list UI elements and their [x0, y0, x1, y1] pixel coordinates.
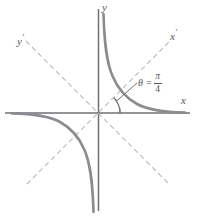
axis-label-y: y: [102, 2, 107, 13]
equals-sign: =: [146, 78, 152, 88]
hyperbola-rotated-axes-figure: y x x′ y′ θ = π 4: [0, 0, 197, 217]
fraction-denominator: 4: [154, 84, 161, 95]
axis-label-x-prime: x′: [170, 28, 177, 42]
theta-symbol: θ: [138, 78, 143, 88]
fraction-numerator: π: [154, 72, 161, 83]
prime-mark-x: ′: [175, 27, 177, 37]
theta-angle-annotation: θ = π 4: [138, 72, 162, 94]
hyperbola-branch-lower-left: [12, 113, 94, 212]
axis-label-x: x: [181, 95, 186, 106]
figure-canvas: [0, 0, 197, 217]
axis-label-y-prime: y′: [17, 33, 24, 47]
prime-mark-y: ′: [22, 32, 24, 42]
pi-over-four-fraction: π 4: [154, 72, 162, 94]
